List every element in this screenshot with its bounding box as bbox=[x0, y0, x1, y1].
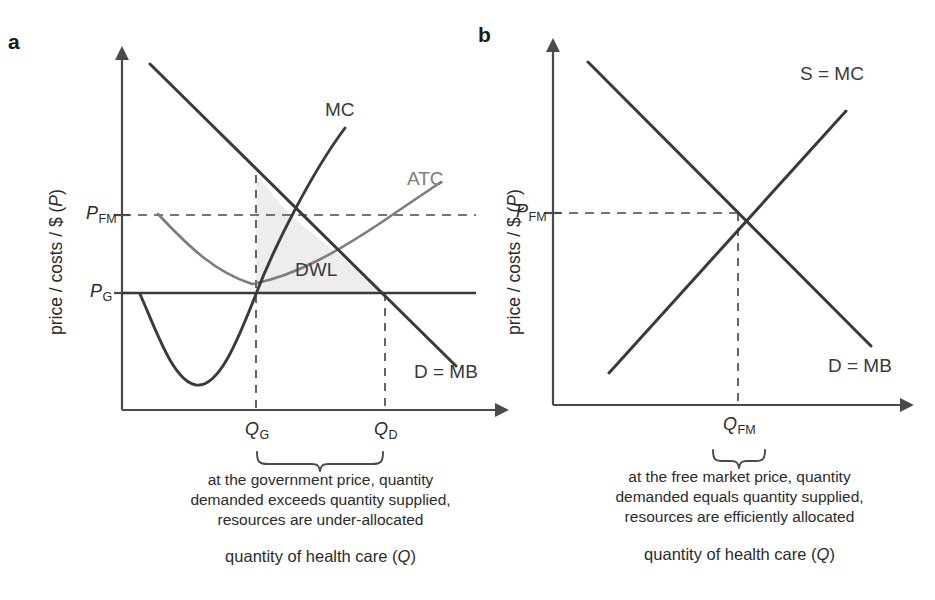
panel-a-x-axis-title-text: quantity of health care (Q) bbox=[225, 547, 416, 565]
panel-a-y-axis-title: price / costs / $ (P) bbox=[46, 189, 67, 335]
panel-a-brace bbox=[257, 452, 383, 471]
panel-a-quantity-tick-qd: QD bbox=[374, 419, 397, 440]
panel-b-x-axis-title: quantity of health care (Q) bbox=[562, 545, 917, 564]
panel-b-brace bbox=[713, 450, 765, 468]
panel-a-price-tick-pg: PG bbox=[90, 281, 112, 302]
panel-b-price-tick-pfm: PFM bbox=[516, 201, 546, 222]
atc-curve-label: ATC bbox=[407, 168, 444, 190]
panel-a-quantity-tick-qg: QG bbox=[245, 419, 269, 440]
dwl-area-label: DWL bbox=[295, 259, 337, 281]
panel-b-x-axis-title-text: quantity of health care (Q) bbox=[644, 545, 835, 563]
panel-a-caption: at the government price, quantity demand… bbox=[143, 470, 498, 530]
demand-label-panel-a: D = MB bbox=[414, 361, 478, 383]
demand-line-panel-b bbox=[588, 62, 871, 346]
supply-line-panel-b bbox=[609, 111, 846, 373]
panel-b-graph bbox=[545, 50, 902, 468]
panel-b-caption: at the free market price, quantity deman… bbox=[562, 467, 917, 527]
panel-b-quantity-tick-qfm: QFM bbox=[723, 414, 755, 435]
panel-a-price-tick-pfm: PFM bbox=[86, 203, 116, 224]
panel-a-letter: a bbox=[8, 30, 20, 54]
supply-label-panel-b: S = MC bbox=[800, 63, 864, 85]
panel-b-letter: b bbox=[478, 23, 491, 47]
panel-a-x-axis-title: quantity of health care (Q) bbox=[143, 547, 498, 566]
mc-curve-label: MC bbox=[325, 99, 355, 121]
panel-a-y-axis-title-text: price / costs / $ (P) bbox=[46, 189, 66, 335]
demand-label-panel-b: D = MB bbox=[828, 355, 892, 377]
figure-container: a price / costs / $ (P) PFM PG QG QD MC … bbox=[0, 0, 935, 600]
